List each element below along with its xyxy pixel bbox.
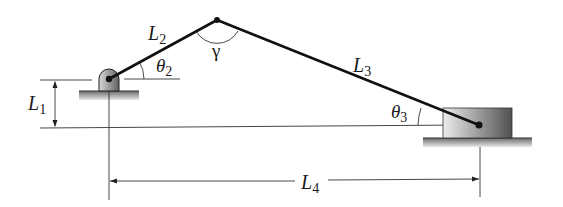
slider-baseline [40,125,465,128]
theta3-arc [418,108,421,125]
label-l1: L1 [27,92,46,117]
label-l4: L4 [300,171,319,196]
slider-ground [423,138,532,147]
crank-pivot-joint [106,76,112,82]
label-theta3: θ3 [391,101,407,125]
label-gamma: γ [211,40,220,61]
label-l3: L3 [352,54,371,79]
slider-crank-diagram: L1 L2 L3 L4 θ2 θ3 γ [0,0,563,207]
label-l2: L2 [147,22,166,47]
l1-dimension [53,81,58,127]
theta2-arc [139,61,144,79]
label-theta2: θ2 [156,55,172,79]
crank-rod-joint [214,17,220,23]
link-l3-connecting-rod [217,20,479,125]
slider-pin-joint [476,122,483,129]
l4-dimension [110,177,479,184]
